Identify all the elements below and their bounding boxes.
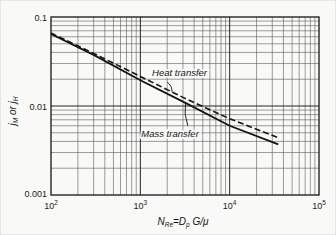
- y-axis-label: jM or jH: [7, 96, 19, 127]
- y-tick-label: 0.01: [29, 102, 47, 112]
- x-tick-label: 102: [44, 199, 58, 211]
- y-tick-label: 0.001: [24, 189, 47, 199]
- x-tick-label: 103: [134, 199, 148, 211]
- mass-transfer-label: Mass transfer: [141, 128, 199, 139]
- series-heat-transfer-curve: [51, 33, 278, 138]
- x-tick-label: 104: [223, 199, 237, 211]
- jfactor-chart: Heat transferMass transfer0.10.010.00110…: [1, 1, 336, 235]
- heat-transfer-label: Heat transfer: [152, 67, 208, 78]
- x-axis-label: NRe=Dp G/μ: [157, 216, 209, 229]
- jfactor-figure: Heat transferMass transfer0.10.010.00110…: [0, 0, 336, 235]
- y-tick-label: 0.1: [34, 13, 47, 23]
- x-tick-label: 105: [312, 199, 326, 211]
